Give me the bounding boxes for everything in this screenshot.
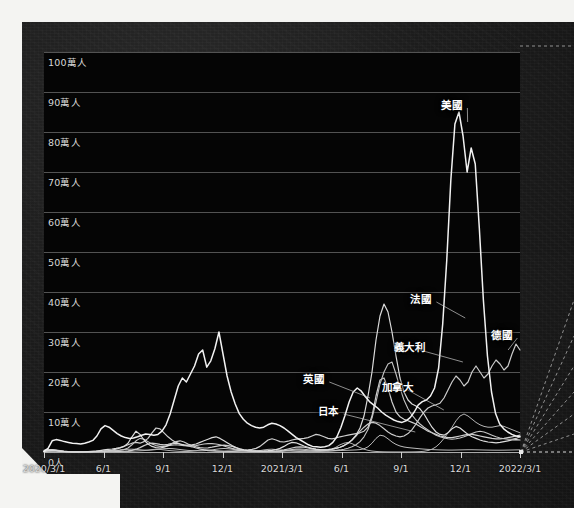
x-tick-label: 2022/3/1 <box>499 463 542 474</box>
y-tick-label: 10萬人 <box>48 415 81 429</box>
series-label-日本: 日本 <box>318 403 339 418</box>
y-tick-label: 90萬人 <box>48 95 81 109</box>
x-tick-mark <box>104 452 105 458</box>
x-tick-label: 12/1 <box>212 463 233 474</box>
y-tick-label: 30萬人 <box>48 335 81 349</box>
series-label-義大利: 義大利 <box>394 339 426 354</box>
x-tick-label: 2020/3/1 <box>23 463 66 474</box>
series-label-法國: 法國 <box>410 291 431 306</box>
x-tick-label: 6/1 <box>334 463 349 474</box>
x-tick-mark <box>342 452 343 458</box>
y-tick-label: 100萬人 <box>48 55 87 69</box>
screenshot-root: 100萬人90萬人80萬人70萬人60萬人50萬人40萬人30萬人20萬人10萬… <box>0 0 574 508</box>
x-tick-label: 9/1 <box>393 463 408 474</box>
x-tick-label: 2021/3/1 <box>261 463 304 474</box>
x-tick-mark <box>223 452 224 458</box>
chart-series-layer <box>44 52 520 452</box>
x-tick-mark <box>461 452 462 458</box>
x-tick-label: 12/1 <box>450 463 471 474</box>
series-line-義大利 <box>44 362 520 452</box>
chart-plot-area <box>44 52 520 452</box>
y-tick-label: 60萬人 <box>48 215 81 229</box>
x-tick-mark <box>282 452 283 458</box>
x-tick-mark <box>520 452 521 458</box>
series-label-加拿大: 加拿大 <box>382 379 414 394</box>
series-line-法國 <box>44 304 520 452</box>
series-line-美國 <box>44 112 520 451</box>
series-label-美國: 美國 <box>441 97 462 112</box>
frame-edge-left <box>0 0 22 508</box>
x-tick-mark <box>401 452 402 458</box>
x-tick-mark <box>44 452 45 458</box>
frame-edge-top <box>0 0 574 20</box>
y-tick-label: 40萬人 <box>48 295 81 309</box>
x-tick-mark <box>163 452 164 458</box>
x-tick-label: 6/1 <box>96 463 111 474</box>
y-tick-label: 50萬人 <box>48 255 81 269</box>
y-tick-label: 70萬人 <box>48 175 81 189</box>
series-line-德國 <box>44 344 520 452</box>
y-tick-label: 20萬人 <box>48 375 81 389</box>
y-tick-label: 80萬人 <box>48 135 81 149</box>
series-label-德國: 德國 <box>491 327 512 342</box>
x-tick-label: 9/1 <box>155 463 170 474</box>
series-label-英國: 英國 <box>303 371 324 386</box>
